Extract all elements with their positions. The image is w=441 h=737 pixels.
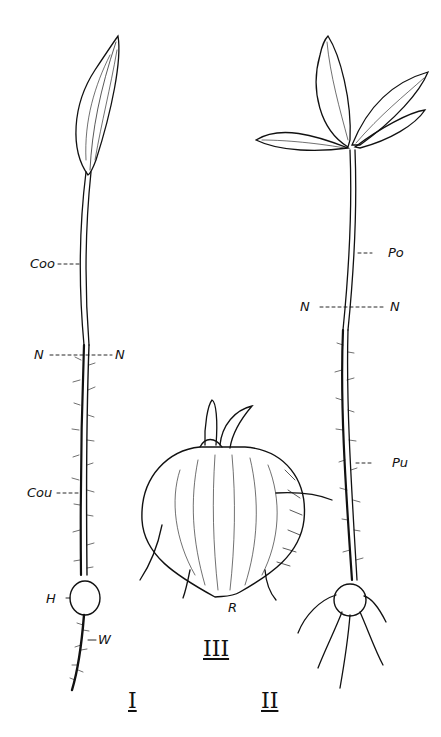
label-pu: Pu	[392, 456, 408, 469]
seedling-ii	[256, 36, 428, 688]
label-n-left-1: N	[34, 348, 44, 361]
label-n-right-2: N	[390, 300, 400, 313]
label-n-right-1: N	[115, 348, 125, 361]
panel-numeral-ii: II	[261, 690, 278, 712]
seedling-illustration	[0, 0, 441, 737]
label-r: R	[228, 601, 237, 614]
tuber-iii	[140, 400, 332, 600]
panel-numeral-iii: III	[203, 638, 229, 660]
label-cou: Cou	[27, 486, 52, 499]
label-n-left-2: N	[300, 300, 310, 313]
label-w: W	[98, 633, 111, 646]
label-coo: Coo	[30, 257, 55, 270]
seedling-i	[50, 36, 119, 690]
label-po: Po	[388, 246, 404, 259]
label-h: H	[46, 592, 56, 605]
panel-numeral-i: I	[128, 690, 137, 712]
